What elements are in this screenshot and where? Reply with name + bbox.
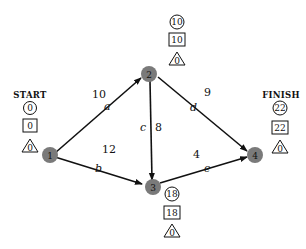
node-4-slack: 0 bbox=[277, 144, 283, 154]
node-1-times: 0 0 0 bbox=[22, 102, 38, 154]
node-2: 2 bbox=[141, 66, 157, 82]
node-2-slack: 0 bbox=[174, 56, 180, 66]
node-1: 1 bbox=[42, 147, 58, 163]
edge-a-activity: a bbox=[104, 100, 111, 113]
node-1-earliest: 0 bbox=[27, 103, 33, 113]
network-diagram: 10 a 12 b c 8 9 d 4 e 1 2 3 4 START bbox=[0, 0, 306, 249]
edge-c-activity: c bbox=[140, 121, 146, 134]
edge-c-duration: 8 bbox=[155, 121, 162, 134]
finish-label: FINISH bbox=[262, 90, 300, 100]
node-3-times: 18 18 0 bbox=[164, 187, 180, 238]
edge-c: c 8 bbox=[140, 81, 162, 180]
edge-b: 12 b bbox=[55, 143, 142, 184]
node-1-slack: 0 bbox=[27, 143, 33, 153]
node-1-latest: 0 bbox=[27, 121, 33, 131]
node-4-label: 4 bbox=[252, 151, 258, 161]
node-2-latest: 10 bbox=[171, 35, 183, 45]
edge-a: 10 a bbox=[55, 78, 141, 153]
node-4-latest: 22 bbox=[274, 123, 285, 133]
node-3-label: 3 bbox=[150, 183, 156, 193]
node-3: 3 bbox=[145, 179, 161, 195]
edge-d: 9 d bbox=[158, 77, 247, 151]
node-1-label: 1 bbox=[47, 151, 53, 161]
edge-e-duration: 4 bbox=[193, 148, 200, 161]
start-label: START bbox=[13, 90, 47, 100]
edge-d-duration: 9 bbox=[204, 86, 211, 99]
edge-d-activity: d bbox=[190, 101, 197, 114]
node-3-earliest: 18 bbox=[166, 189, 178, 199]
node-2-earliest: 10 bbox=[171, 17, 183, 27]
node-4-times: 22 22 0 bbox=[272, 101, 288, 154]
node-3-slack: 0 bbox=[169, 228, 175, 238]
node-3-latest: 18 bbox=[166, 208, 178, 218]
edge-e: 4 e bbox=[160, 148, 247, 183]
edge-b-duration: 12 bbox=[102, 143, 116, 156]
node-2-label: 2 bbox=[146, 70, 152, 80]
node-4: 4 bbox=[247, 147, 263, 163]
node-4-earliest: 22 bbox=[274, 103, 285, 113]
edge-b-activity: b bbox=[95, 162, 102, 175]
edge-e-activity: e bbox=[204, 162, 211, 175]
node-2-times: 10 10 0 bbox=[169, 15, 185, 66]
